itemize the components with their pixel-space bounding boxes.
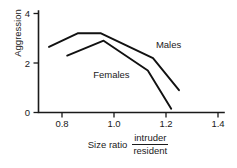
x-axis-title-fraction: intruder resident (132, 133, 168, 156)
y-tick-label-0: 0 (25, 107, 30, 118)
fraction-numerator: intruder (133, 133, 167, 143)
x-tick-label-1-4: 1.4 (211, 118, 224, 129)
y-axis-title-text: Aggression (12, 9, 23, 57)
aggression-size-ratio-chart: 0 2 4 0.8 1.0 1.2 1.4 Males Females Aggr… (0, 0, 237, 168)
series-label-females: Females (93, 69, 130, 80)
x-axis-title: Size ratio intruder resident (38, 133, 218, 156)
y-tick-label-4: 4 (25, 8, 30, 19)
x-tick-label-1-0: 1.0 (107, 118, 120, 129)
x-tick-label-1-2: 1.2 (159, 118, 172, 129)
fraction-denominator: resident (132, 146, 168, 156)
series-label-males: Males (156, 39, 182, 50)
chart-axes (39, 11, 225, 113)
y-tick-label-2: 2 (25, 58, 30, 69)
y-axis-title: Aggression (7, 0, 21, 69)
x-axis-title-lead: Size ratio (88, 139, 128, 150)
x-tick-label-0-8: 0.8 (55, 118, 68, 129)
